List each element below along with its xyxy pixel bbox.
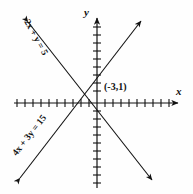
- y-axis-label: y: [84, 7, 89, 18]
- point-coordinate-label: (-3,1): [104, 82, 127, 92]
- x-axis: [14, 99, 178, 107]
- x-axis-label: x: [176, 86, 182, 97]
- graph-figure: x y (-3,1) 2x + y = 5 4x + 3y = 15: [0, 0, 193, 194]
